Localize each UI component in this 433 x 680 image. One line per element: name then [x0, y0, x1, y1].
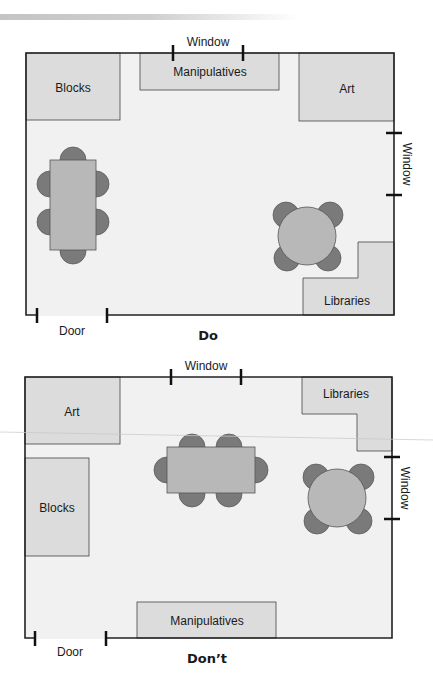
floor-plans: Blocks Manipulatives Art Libraries — [0, 0, 433, 680]
do-top-window-label: Window — [187, 35, 230, 49]
dont-top-window-label: Window — [185, 359, 228, 373]
dont-art-label: Art — [64, 405, 80, 419]
dont-manipulatives-label: Manipulatives — [170, 614, 243, 628]
round-table — [278, 207, 336, 265]
dont-floor-plan: Art Libraries Blocks Manipulatives — [25, 359, 412, 666]
do-art-label: Art — [339, 82, 355, 96]
rect-table — [167, 447, 255, 493]
do-caption: Do — [198, 328, 218, 343]
dont-libraries-label: Libraries — [323, 387, 369, 401]
do-floor-plan: Blocks Manipulatives Art Libraries — [26, 35, 414, 343]
rect-table — [50, 160, 96, 250]
dont-round-table-group — [303, 464, 374, 534]
do-libraries-label: Libraries — [324, 294, 370, 308]
dont-door-label: Door — [57, 645, 83, 659]
do-round-table-group — [273, 202, 343, 271]
dont-caption: Don’t — [187, 651, 227, 666]
dont-blocks-label: Blocks — [39, 501, 74, 515]
do-manipulatives-label: Manipulatives — [173, 65, 246, 79]
do-right-window-label: Window — [400, 143, 414, 186]
dont-right-window-label: Window — [398, 467, 412, 510]
do-blocks-label: Blocks — [55, 81, 90, 95]
do-door-label: Door — [59, 324, 85, 338]
round-table — [308, 469, 366, 527]
